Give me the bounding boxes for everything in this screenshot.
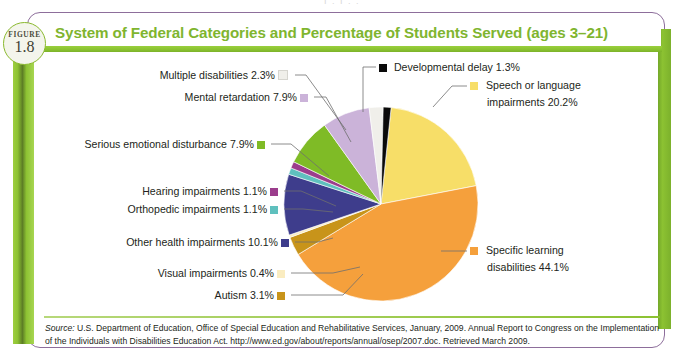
label-orthopedic-impairments-text: Orthopedic impairments 1.1% xyxy=(128,203,268,215)
label-serious-emotional-text: Serious emotional disturbance 7.9% xyxy=(84,138,254,150)
swatch-developmental-delay xyxy=(379,64,387,72)
label-hearing-impairments: Hearing impairments 1.1% xyxy=(93,184,278,198)
swatch-hearing-impairments xyxy=(270,188,278,196)
swatch-specific-learning xyxy=(470,247,478,255)
left-accent-bar xyxy=(13,28,34,344)
pie-slices xyxy=(284,107,478,301)
swatch-visual-impairments xyxy=(277,270,285,278)
label-visual-impairments-text: Visual impairments 0.4% xyxy=(158,267,274,279)
label-orthopedic-impairments: Orthopedic impairments 1.1% xyxy=(83,202,278,216)
label-autism-text: Autism 3.1% xyxy=(215,289,274,301)
label-multiple-disabilities-text: Multiple disabilities 2.3% xyxy=(160,69,275,81)
label-multiple-disabilities: Multiple disabilities 2.3% xyxy=(93,68,288,82)
label-speech-or-language-line1: Speech or language xyxy=(486,79,581,91)
label-mental-retardation-text: Mental retardation 7.9% xyxy=(185,91,297,103)
label-hearing-impairments-text: Hearing impairments 1.1% xyxy=(142,185,267,197)
label-speech-or-language: Speech or language impairments 20.2% xyxy=(470,78,581,109)
label-autism: Autism 3.1% xyxy=(133,288,285,302)
label-developmental-delay: Developmental delay 1.3% xyxy=(379,60,520,74)
source-note: Source: U.S. Department of Education, Of… xyxy=(45,322,661,349)
label-developmental-delay-text: Developmental delay 1.3% xyxy=(394,61,520,73)
swatch-other-health-impairments xyxy=(281,239,289,247)
pie-chart: Multiple disabilities 2.3% Mental retard… xyxy=(33,52,661,310)
source-divider xyxy=(44,316,660,318)
label-mental-retardation: Mental retardation 7.9% xyxy=(113,90,308,104)
page-bleed-text: I . I . . xyxy=(0,0,684,6)
label-other-health-impairments-text: Other health impairments 10.1% xyxy=(126,236,278,248)
leader-developmental-delay xyxy=(363,67,376,112)
source-label: Source: xyxy=(45,323,75,333)
label-speech-or-language-line2: impairments 20.2% xyxy=(487,95,581,109)
label-serious-emotional: Serious emotional disturbance 7.9% xyxy=(53,137,265,151)
swatch-speech-or-language xyxy=(470,82,478,90)
source-text: U.S. Department of Education, Office of … xyxy=(45,323,659,346)
label-specific-learning-line2: disabilities 44.1% xyxy=(487,260,569,274)
label-specific-learning-line1: Specific learning xyxy=(486,244,564,256)
swatch-mental-retardation xyxy=(300,94,308,102)
label-specific-learning: Specific learning disabilities 44.1% xyxy=(470,243,569,274)
label-visual-impairments: Visual impairments 0.4% xyxy=(103,266,285,280)
swatch-serious-emotional xyxy=(257,141,265,149)
leader-speech xyxy=(433,86,467,107)
label-other-health-impairments: Other health impairments 10.1% xyxy=(78,235,289,249)
swatch-multiple-disabilities xyxy=(278,70,288,80)
swatch-autism xyxy=(277,292,285,300)
figure-title: System of Federal Categories and Percent… xyxy=(55,19,655,46)
swatch-orthopedic-impairments xyxy=(270,206,278,214)
